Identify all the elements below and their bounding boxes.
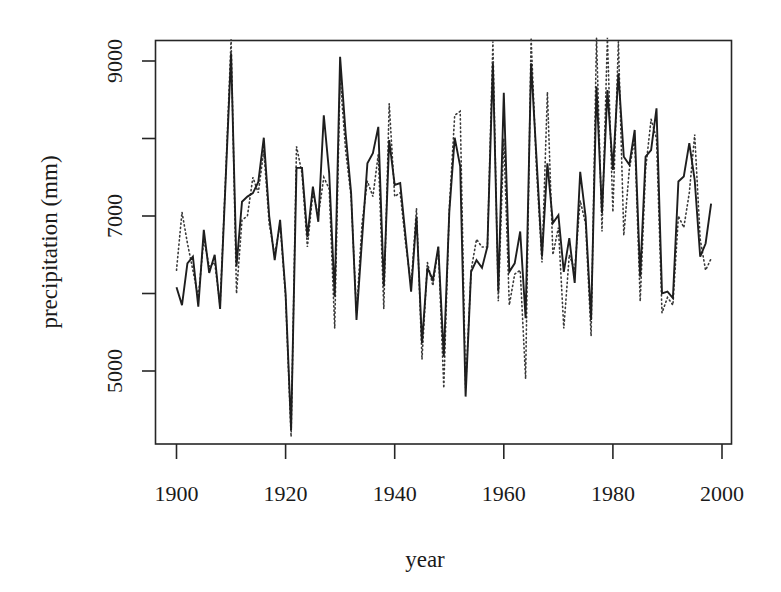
x-tick-label: 1900 bbox=[155, 481, 199, 506]
series-layer bbox=[177, 38, 712, 437]
x-tick-label: 1920 bbox=[264, 481, 308, 506]
x-axis-label: year bbox=[405, 547, 445, 572]
plot-frame bbox=[156, 41, 732, 445]
x-tick-label: 1940 bbox=[373, 481, 417, 506]
y-tick-label: 5000 bbox=[102, 349, 127, 393]
x-tick-label: 1980 bbox=[591, 481, 635, 506]
x-tick-label: 2000 bbox=[700, 481, 744, 506]
x-tick-label: 1960 bbox=[482, 481, 526, 506]
y-tick-label: 7000 bbox=[102, 194, 127, 238]
series-dotted-line bbox=[177, 38, 712, 437]
x-axis: 190019201940196019802000 bbox=[155, 444, 745, 506]
y-tick-label: 9000 bbox=[102, 39, 127, 83]
y-axis-label: precipitation (mm) bbox=[37, 155, 62, 328]
line-chart: 500070009000 190019201940196019802000 ye… bbox=[0, 0, 781, 592]
y-axis: 500070009000 bbox=[102, 39, 156, 393]
